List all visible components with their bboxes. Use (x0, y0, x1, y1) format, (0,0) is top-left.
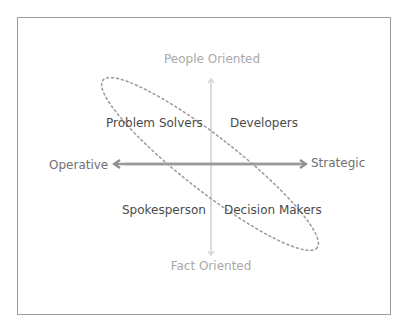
axis-label-bottom: Fact Oriented (170, 259, 252, 273)
quadrant-bottom-left: Spokesperson (122, 203, 206, 217)
axis-label-left: Operative (49, 158, 108, 172)
quadrant-top-right: Developers (230, 116, 298, 130)
quadrant-bottom-right: Decision Makers (224, 203, 322, 217)
quadrant-top-left: Problem Solvers (106, 116, 203, 130)
axis-label-top: People Oriented (164, 52, 258, 66)
axis-label-right: Strategic (311, 156, 365, 170)
